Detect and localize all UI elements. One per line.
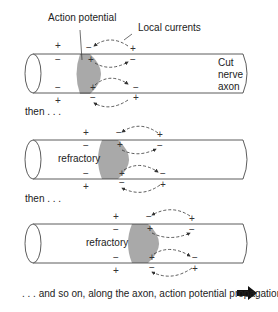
axon-diagram xyxy=(0,0,278,312)
plus-sign: + xyxy=(113,266,119,276)
minus-sign: − xyxy=(113,225,119,235)
plus-sign: + xyxy=(113,212,119,222)
minus-sign: − xyxy=(55,83,61,93)
local-currents-label: Local currents xyxy=(138,22,201,33)
minus-sign: − xyxy=(192,253,198,263)
action-potential-label: Action potential xyxy=(48,12,116,23)
plus-sign: + xyxy=(55,96,61,106)
plus-sign: + xyxy=(189,214,195,224)
minus-sign: − xyxy=(146,212,152,222)
minus-sign: − xyxy=(116,128,122,138)
minus-sign: − xyxy=(90,93,96,103)
axon-label: axon xyxy=(218,81,240,92)
caption: . . . and so on, along the axon, action … xyxy=(22,288,278,299)
plus-sign: + xyxy=(88,55,94,65)
plus-sign: + xyxy=(192,264,198,274)
minus-sign: − xyxy=(149,263,155,273)
plus-sign: + xyxy=(157,130,163,140)
plus-sign: + xyxy=(83,182,89,192)
axon-segment-3 xyxy=(25,210,247,276)
then-label-1: then . . . xyxy=(25,106,61,117)
plus-sign: + xyxy=(83,128,89,138)
minus-sign: − xyxy=(83,141,89,151)
minus-sign: − xyxy=(189,225,195,235)
minus-sign: − xyxy=(157,141,163,151)
minus-sign: − xyxy=(130,55,136,65)
refractory-label-2: refractory xyxy=(86,237,128,248)
minus-sign: − xyxy=(86,43,92,53)
plus-sign: + xyxy=(55,41,61,51)
refractory-label-1: refractory xyxy=(58,153,100,164)
minus-sign: − xyxy=(83,169,89,179)
cut-label: Cut xyxy=(218,57,234,68)
plus-sign: + xyxy=(160,180,166,190)
minus-sign: − xyxy=(113,253,119,263)
plus-sign: + xyxy=(130,44,136,54)
then-label-2: then . . . xyxy=(25,193,61,204)
plus-sign: + xyxy=(117,140,123,150)
plus-sign: + xyxy=(133,93,139,103)
minus-sign: − xyxy=(160,169,166,179)
minus-sign: − xyxy=(119,178,125,188)
minus-sign: − xyxy=(55,55,61,65)
plus-sign: + xyxy=(147,224,153,234)
nerve-label: nerve xyxy=(218,69,243,80)
